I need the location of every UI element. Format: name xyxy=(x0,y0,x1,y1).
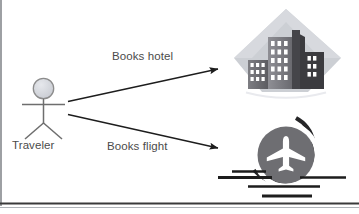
edge-label-books-hotel: Books hotel xyxy=(112,50,173,62)
airplane-circle-icon[interactable] xyxy=(218,118,346,196)
actor-leg-left xyxy=(25,123,44,139)
edge-label-books-flight: Books flight xyxy=(107,140,168,152)
edge-books-hotel[interactable] xyxy=(68,69,218,102)
actor-label-traveler: Traveler xyxy=(12,139,55,151)
hotel-buildings-icon[interactable] xyxy=(234,9,341,98)
actor-leg-right xyxy=(44,123,63,139)
diagram-svg xyxy=(0,0,359,214)
actor-traveler[interactable] xyxy=(22,78,65,139)
actor-head xyxy=(33,78,53,98)
diagram-canvas: Traveler Books hotel Books flight xyxy=(0,0,359,214)
